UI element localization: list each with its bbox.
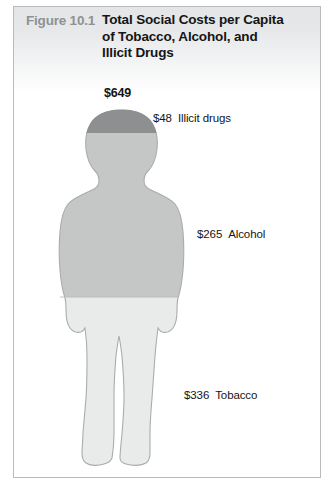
segment-alcohol-torso bbox=[59, 110, 184, 465]
callout-tobacco: $336Tobacco bbox=[184, 389, 257, 401]
callout-alcohol-name: Alcohol bbox=[228, 228, 265, 240]
callout-illicit-name: Illicit drugs bbox=[178, 112, 231, 124]
callout-illicit-drugs: $48Illicit drugs bbox=[153, 112, 231, 124]
callout-illicit-amount: $48 bbox=[153, 112, 172, 124]
callout-tobacco-name: Tobacco bbox=[215, 389, 257, 401]
callout-tobacco-amount: $336 bbox=[184, 389, 209, 401]
callout-alcohol: $265Alcohol bbox=[197, 228, 265, 240]
human-silhouette-pictogram bbox=[0, 0, 329, 494]
figure-panel: Figure 10.1 Total Social Costs per Capit… bbox=[0, 0, 329, 494]
callout-alcohol-amount: $265 bbox=[197, 228, 222, 240]
